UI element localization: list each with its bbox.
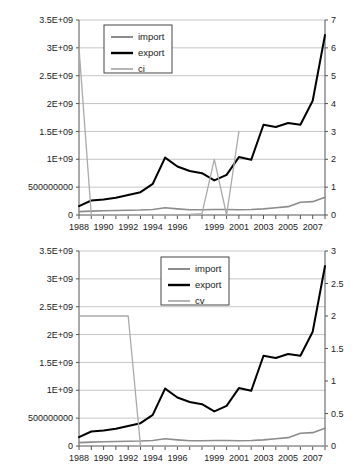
y-axis-right-tick-label: 1.5	[331, 344, 344, 354]
x-axis-tick-label: 2003	[253, 222, 273, 232]
series-line-cv	[79, 316, 325, 446]
y-axis-left-tick-label: 500000000	[28, 182, 73, 192]
x-axis-tick-label: 1990	[94, 222, 114, 232]
y-axis-right-tick-label: 0.5	[331, 409, 344, 419]
y-axis-right-tick-label: 3	[331, 246, 336, 256]
y-axis-left-tick-label: 0	[68, 441, 73, 451]
y-axis-left-tick-label: 1.5E+09	[39, 127, 73, 137]
y-axis-left-tick-label: 2E+09	[47, 99, 73, 109]
x-axis-tick-label: 2001	[229, 222, 249, 232]
x-axis-tick-label: 1990	[94, 453, 114, 463]
y-axis-left-ticks: 05000000001E+091.5E+092E+092.5E+093E+093…	[28, 15, 79, 220]
x-axis-tick-label: 1988	[69, 453, 89, 463]
y-axis-right-tick-label: 0	[331, 210, 336, 220]
y-axis-right-tick-label: 5	[331, 71, 336, 81]
x-axis-tick-label: 1992	[118, 453, 138, 463]
legend-label-import: import	[195, 263, 222, 274]
x-axis-tick-label: 1996	[167, 222, 187, 232]
y-axis-right-tick-label: 7	[331, 15, 336, 25]
x-axis-tick-label: 1999	[204, 222, 224, 232]
bottom-chart-figure: 05000000001E+091.5E+092E+092.5E+093E+093…	[0, 238, 356, 476]
x-axis-ticks: 1988199019921994199619992001200320052007	[69, 215, 325, 232]
x-axis-tick-label: 1992	[118, 222, 138, 232]
y-axis-right-tick-label: 2.5	[331, 279, 344, 289]
x-axis-tick-label: 1996	[167, 453, 187, 463]
y-axis-left-tick-label: 2E+09	[47, 330, 73, 340]
x-axis-tick-label: 1994	[143, 453, 163, 463]
y-axis-left-tick-label: 1.5E+09	[39, 358, 73, 368]
y-axis-left-tick-label: 1E+09	[47, 385, 73, 395]
y-axis-right-ticks: 00.511.522.53	[325, 246, 344, 451]
x-axis-tick-label: 2001	[229, 453, 249, 463]
y-axis-left-ticks: 05000000001E+091.5E+092E+092.5E+093E+093…	[28, 246, 79, 451]
legend-label-export: export	[138, 47, 165, 58]
top-chart-canvas: 05000000001E+091.5E+092E+092.5E+093E+093…	[0, 0, 356, 238]
x-axis-tick-label: 1988	[69, 222, 89, 232]
top-chart-figure: 05000000001E+091.5E+092E+092.5E+093E+093…	[0, 0, 356, 238]
y-axis-right-tick-label: 6	[331, 43, 336, 53]
y-axis-left-tick-label: 3.5E+09	[39, 15, 73, 25]
x-axis-tick-label: 2003	[253, 453, 273, 463]
legend-label-ci: ci	[138, 63, 145, 74]
y-axis-right-ticks: 01234567	[325, 15, 336, 220]
x-axis-tick-label: 2007	[303, 222, 323, 232]
y-axis-left-tick-label: 3E+09	[47, 274, 73, 284]
x-axis-tick-label: 1999	[204, 453, 224, 463]
y-axis-left-tick-label: 0	[68, 210, 73, 220]
legend-label-cv: cv	[195, 295, 205, 306]
y-axis-left-tick-label: 3E+09	[47, 43, 73, 53]
legend: importexportcv	[161, 257, 229, 306]
series-line-import	[79, 197, 325, 211]
y-axis-right-tick-label: 0	[331, 441, 336, 451]
x-axis-tick-label: 1994	[143, 222, 163, 232]
x-axis-tick-label: 2005	[278, 222, 298, 232]
y-axis-right-tick-label: 2	[331, 154, 336, 164]
legend: importexportci	[104, 25, 172, 74]
y-axis-left-tick-label: 500000000	[28, 413, 73, 423]
x-axis-ticks: 1988199019921994199619992001200320052007	[69, 446, 325, 463]
y-axis-right-tick-label: 2	[331, 311, 336, 321]
y-axis-left-tick-label: 2.5E+09	[39, 71, 73, 81]
legend-label-export: export	[195, 279, 222, 290]
x-axis-tick-label: 2007	[303, 453, 323, 463]
y-axis-left-tick-label: 1E+09	[47, 154, 73, 164]
y-axis-right-tick-label: 3	[331, 127, 336, 137]
y-axis-left-tick-label: 3.5E+09	[39, 246, 73, 256]
legend-label-import: import	[138, 31, 165, 42]
y-axis-left-tick-label: 2.5E+09	[39, 302, 73, 312]
x-axis-tick-label: 2005	[278, 453, 298, 463]
y-axis-right-tick-label: 1	[331, 376, 336, 386]
y-axis-right-tick-label: 4	[331, 99, 336, 109]
bottom-chart-canvas: 05000000001E+091.5E+092E+092.5E+093E+093…	[0, 238, 356, 476]
series-line-import	[79, 428, 325, 442]
y-axis-right-tick-label: 1	[331, 182, 336, 192]
